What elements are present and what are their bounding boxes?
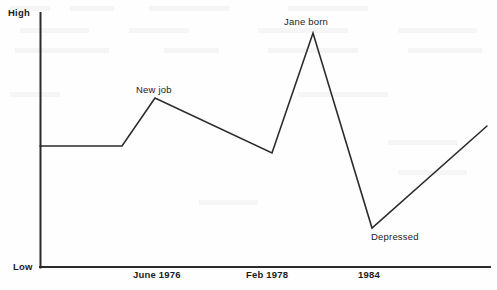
y-axis-low-label: Low [13,261,33,272]
annotation-jane-born: Jane born [284,16,328,27]
x-tick-label-june-1976: June 1976 [133,269,181,280]
data-series-mood [40,33,487,228]
x-tick-label-1984: 1984 [358,269,380,280]
line-chart-plot [0,0,497,290]
axes-group [40,13,490,268]
mood-line-path [40,33,487,228]
annotation-depressed: Depressed [371,231,419,242]
x-tick-label-feb-1978: Feb 1978 [246,269,288,280]
annotation-new-job: New job [136,84,172,95]
y-axis-high-label: High [8,7,30,18]
chart-figure: High Low June 1976 Feb 1978 1984 New job… [0,0,497,290]
